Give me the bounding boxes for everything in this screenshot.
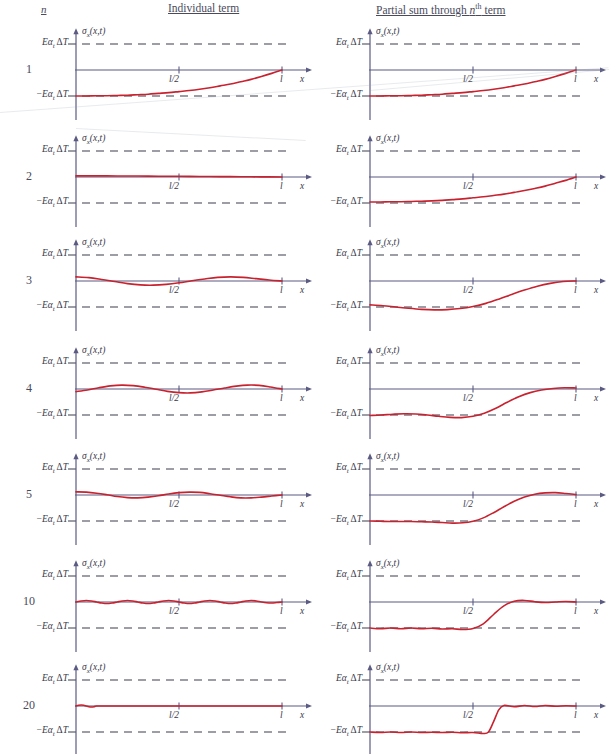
plot-panel-n1-individual: σx(x,t)Eαt ΔT−Eαt ΔTl/2lx — [30, 26, 322, 118]
plot-row-n-4: 4σx(x,t)Eαt ΔT−Eαt ΔTl/2lxσx(x,t)Eαt ΔT−… — [0, 345, 605, 437]
y-tick-label-negative: −Eαt ΔT — [310, 621, 362, 634]
x-axis-name-label: x — [594, 499, 598, 509]
column-header-partial-sum: Partial sum through nth term — [376, 2, 506, 16]
y-tick-label-positive: Eαt ΔT — [314, 37, 362, 50]
x-tick-label-l: l — [280, 74, 283, 84]
plot-canvas — [324, 237, 614, 329]
y-axis-quantity-label: σx(x,t) — [376, 451, 399, 464]
y-axis-quantity-label: σx(x,t) — [376, 558, 399, 571]
x-tick-label-l: l — [280, 393, 283, 403]
x-axis-arrow — [306, 703, 312, 708]
x-tick-label-l: l — [280, 606, 283, 616]
plot-canvas — [324, 345, 614, 437]
plot-panel-n2-partial-sum: σx(x,t)Eαt ΔT−Eαt ΔTl/2lx — [324, 133, 614, 225]
y-axis-arrow — [367, 560, 372, 566]
x-tick-label-l: l — [280, 499, 283, 509]
x-tick-label-half: l/2 — [169, 74, 179, 84]
x-axis-arrow — [600, 278, 606, 283]
y-tick-label-negative: −Eαt ΔT — [310, 514, 362, 527]
plot-canvas — [324, 662, 614, 754]
x-axis-arrow — [600, 67, 606, 72]
partial-post: term — [482, 4, 506, 16]
x-axis-arrow — [306, 386, 312, 391]
y-tick-label-positive: Eαt ΔT — [20, 462, 68, 475]
y-tick-label-positive: Eαt ΔT — [20, 569, 68, 582]
y-axis-arrow — [73, 560, 78, 566]
plot-canvas — [30, 133, 322, 225]
x-tick-label-l: l — [280, 285, 283, 295]
x-axis-arrow — [600, 599, 606, 604]
y-tick-label-negative: −Eαt ΔT — [310, 89, 362, 102]
y-tick-label-positive: Eαt ΔT — [314, 569, 362, 582]
y-tick-label-positive: Eαt ΔT — [314, 462, 362, 475]
x-axis-name-label: x — [300, 606, 304, 616]
plot-panel-n1-partial-sum: σx(x,t)Eαt ΔT−Eαt ΔTl/2lx — [324, 26, 614, 118]
y-axis-quantity-label: σx(x,t) — [82, 237, 105, 250]
plot-canvas — [324, 26, 614, 118]
x-tick-label-l: l — [574, 393, 577, 403]
column-header-n: n — [41, 3, 47, 15]
y-axis-quantity-label: σx(x,t) — [82, 558, 105, 571]
y-axis-quantity-label: σx(x,t) — [376, 26, 399, 39]
y-tick-label-positive: Eαt ΔT — [20, 144, 68, 157]
x-axis-name-label: x — [300, 181, 304, 191]
y-tick-label-positive: Eαt ΔT — [20, 37, 68, 50]
plot-row-n-1: 1σx(x,t)Eαt ΔT−Eαt ΔTl/2lxσx(x,t)Eαt ΔT−… — [0, 26, 605, 118]
plot-canvas — [324, 451, 614, 543]
x-axis-name-label: x — [300, 74, 304, 84]
y-axis-arrow — [367, 28, 372, 34]
plot-panel-n4-partial-sum: σx(x,t)Eαt ΔT−Eαt ΔTl/2lx — [324, 345, 614, 437]
y-tick-label-positive: Eαt ΔT — [20, 356, 68, 369]
y-tick-label-positive: Eαt ΔT — [20, 248, 68, 261]
plot-panel-n2-individual: σx(x,t)Eαt ΔT−Eαt ΔTl/2lx — [30, 133, 322, 225]
x-tick-label-l: l — [574, 710, 577, 720]
x-axis-name-label: x — [594, 181, 598, 191]
y-tick-label-negative: −Eαt ΔT — [16, 621, 68, 634]
x-axis-name-label: x — [300, 285, 304, 295]
y-tick-label-negative: −Eαt ΔT — [16, 89, 68, 102]
x-tick-label-half: l/2 — [169, 393, 179, 403]
x-tick-label-l: l — [574, 606, 577, 616]
y-axis-quantity-label: σx(x,t) — [376, 237, 399, 250]
x-axis-name-label: x — [300, 710, 304, 720]
x-axis-arrow — [306, 278, 312, 283]
x-tick-label-half: l/2 — [463, 606, 473, 616]
y-axis-quantity-label: σx(x,t) — [82, 662, 105, 675]
plot-row-n-10: 10σx(x,t)Eαt ΔT−Eαt ΔTl/2lxσx(x,t)Eαt ΔT… — [0, 558, 605, 650]
y-axis-arrow — [73, 28, 78, 34]
y-axis-arrow — [73, 347, 78, 353]
y-tick-label-positive: Eαt ΔT — [20, 673, 68, 686]
y-tick-label-positive: Eαt ΔT — [314, 248, 362, 261]
y-tick-label-negative: −Eαt ΔT — [16, 196, 68, 209]
y-tick-label-positive: Eαt ΔT — [314, 356, 362, 369]
plot-canvas — [30, 26, 322, 118]
plot-canvas — [324, 133, 614, 225]
x-tick-label-half: l/2 — [169, 499, 179, 509]
y-axis-quantity-label: σx(x,t) — [82, 26, 105, 39]
y-axis-quantity-label: σx(x,t) — [82, 133, 105, 146]
x-axis-arrow — [600, 492, 606, 497]
plot-canvas — [30, 662, 322, 754]
x-tick-label-half: l/2 — [169, 606, 179, 616]
plot-canvas — [30, 558, 322, 650]
plot-panel-n10-individual: σx(x,t)Eαt ΔT−Eαt ΔTl/2lx — [30, 558, 322, 650]
stress-curve — [76, 705, 282, 707]
column-header-individual-term: Individual term — [168, 2, 239, 14]
x-tick-label-l: l — [280, 181, 283, 191]
plot-row-n-20: 20σx(x,t)Eαt ΔT−Eαt ΔTl/2lxσx(x,t)Eαt ΔT… — [0, 662, 605, 754]
x-axis-arrow — [600, 703, 606, 708]
plot-canvas — [324, 558, 614, 650]
x-tick-label-l: l — [574, 181, 577, 191]
y-tick-label-positive: Eαt ΔT — [314, 144, 362, 157]
y-tick-label-negative: −Eαt ΔT — [310, 300, 362, 313]
x-tick-label-half: l/2 — [463, 181, 473, 191]
plot-panel-n5-partial-sum: σx(x,t)Eαt ΔT−Eαt ΔTl/2lx — [324, 451, 614, 543]
x-tick-label-half: l/2 — [169, 181, 179, 191]
y-tick-label-negative: −Eαt ΔT — [16, 725, 68, 738]
x-tick-label-half: l/2 — [169, 710, 179, 720]
plot-canvas — [30, 451, 322, 543]
x-axis-name-label: x — [300, 499, 304, 509]
plot-row-n-3: 3σx(x,t)Eαt ΔT−Eαt ΔTl/2lxσx(x,t)Eαt ΔT−… — [0, 237, 605, 329]
y-axis-arrow — [73, 135, 78, 141]
y-tick-label-negative: −Eαt ΔT — [310, 408, 362, 421]
